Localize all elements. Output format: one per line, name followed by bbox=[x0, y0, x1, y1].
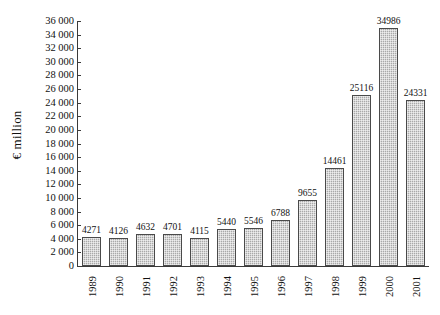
bar-value-label: 24331 bbox=[404, 88, 428, 98]
x-axis-tick-label-text: 1992 bbox=[167, 276, 178, 297]
x-axis-tick-label-text: 1998 bbox=[329, 276, 340, 297]
y-axis-tick-label: 0 bbox=[26, 261, 74, 272]
bar[interactable] bbox=[82, 237, 101, 266]
bar[interactable] bbox=[298, 200, 317, 266]
y-axis-title-label: € million bbox=[9, 110, 25, 159]
bar-slot: 5440 bbox=[213, 21, 240, 266]
plot-area: 4271412646324701411554405546678896551446… bbox=[78, 21, 429, 266]
bar-value-label: 4126 bbox=[109, 226, 128, 236]
bar[interactable] bbox=[109, 238, 128, 266]
bar[interactable] bbox=[379, 28, 398, 266]
bar-chart: € million 02 0004 0006 0008 00010 00012 … bbox=[0, 0, 440, 315]
bar-slot: 4126 bbox=[105, 21, 132, 266]
y-axis-tick-label: 24 000 bbox=[26, 98, 74, 109]
x-axis-tick-label: 1994 bbox=[213, 268, 240, 315]
x-axis-tick-label-text: 1990 bbox=[113, 276, 124, 297]
bar-slot: 4115 bbox=[186, 21, 213, 266]
bar[interactable] bbox=[352, 95, 371, 266]
x-axis-tick-label-text: 1989 bbox=[86, 276, 97, 297]
y-axis-tick-label: 32 000 bbox=[26, 43, 74, 54]
x-axis-tick-label-text: 2001 bbox=[410, 276, 421, 297]
x-axis-tick-label: 1996 bbox=[267, 268, 294, 315]
x-axis-tick-label-text: 1997 bbox=[302, 276, 313, 297]
bar-value-label: 6788 bbox=[271, 208, 290, 218]
y-axis-tick-label: 10 000 bbox=[26, 193, 74, 204]
y-axis-tick-label: 12 000 bbox=[26, 179, 74, 190]
x-axis-tick-label-text: 1999 bbox=[356, 276, 367, 297]
x-axis-tick-label: 1995 bbox=[240, 268, 267, 315]
bar-slot: 5546 bbox=[240, 21, 267, 266]
x-axis-tick-label-text: 2000 bbox=[383, 276, 394, 297]
bar-value-label: 4632 bbox=[136, 222, 155, 232]
x-axis-tick-label: 1993 bbox=[186, 268, 213, 315]
bar-value-label: 14461 bbox=[323, 156, 347, 166]
y-axis-tick-label: 26 000 bbox=[26, 84, 74, 95]
bar[interactable] bbox=[217, 229, 236, 266]
x-axis-tick-label: 1998 bbox=[321, 268, 348, 315]
bar-slot: 14461 bbox=[321, 21, 348, 266]
bar-value-label: 9655 bbox=[298, 188, 317, 198]
bar-value-label: 5440 bbox=[217, 217, 236, 227]
bar-value-label: 4115 bbox=[190, 226, 209, 236]
y-axis-tick-label: 22 000 bbox=[26, 111, 74, 122]
bar[interactable] bbox=[190, 238, 209, 266]
bar-value-label: 4701 bbox=[163, 222, 182, 232]
x-axis-tick-label: 2000 bbox=[375, 268, 402, 315]
y-axis-tick-label: 18 000 bbox=[26, 139, 74, 150]
bar-value-label: 34986 bbox=[377, 16, 401, 26]
x-axis-tick-labels: 1989199019911992199319941995199619971998… bbox=[78, 268, 429, 315]
y-axis-tick-label: 14 000 bbox=[26, 166, 74, 177]
bar-slot: 4271 bbox=[78, 21, 105, 266]
y-axis-tick-label: 2 000 bbox=[26, 247, 74, 258]
bar-slot: 24331 bbox=[402, 21, 429, 266]
y-axis-tick-label: 4 000 bbox=[26, 234, 74, 245]
y-axis-tick-label: 28 000 bbox=[26, 70, 74, 81]
x-axis-tick-label: 1997 bbox=[294, 268, 321, 315]
bar[interactable] bbox=[271, 220, 290, 266]
x-axis-tick-label: 1989 bbox=[78, 268, 105, 315]
bar-value-label: 4271 bbox=[82, 225, 101, 235]
x-axis-tick-label-text: 1991 bbox=[140, 276, 151, 297]
x-axis-line bbox=[77, 266, 429, 267]
x-axis-tick-label-text: 1994 bbox=[221, 276, 232, 297]
bar-slot: 4632 bbox=[132, 21, 159, 266]
bar-slot: 6788 bbox=[267, 21, 294, 266]
x-axis-tick-label: 2001 bbox=[402, 268, 429, 315]
x-axis-tick-label-text: 1996 bbox=[275, 276, 286, 297]
bar[interactable] bbox=[163, 234, 182, 266]
y-axis-tick-label: 36 000 bbox=[26, 16, 74, 27]
bar[interactable] bbox=[136, 234, 155, 266]
bar-value-label: 25116 bbox=[350, 83, 373, 93]
bar-slot: 25116 bbox=[348, 21, 375, 266]
y-axis-tick-label: 20 000 bbox=[26, 125, 74, 136]
x-axis-tick-label: 1991 bbox=[132, 268, 159, 315]
x-axis-tick-label-text: 1995 bbox=[248, 276, 259, 297]
bar-slot: 9655 bbox=[294, 21, 321, 266]
bar[interactable] bbox=[406, 100, 425, 266]
y-axis-tick-label: 16 000 bbox=[26, 152, 74, 163]
bar[interactable] bbox=[325, 168, 344, 266]
y-axis-tick-label: 8 000 bbox=[26, 207, 74, 218]
bar-slot: 4701 bbox=[159, 21, 186, 266]
x-axis-tick-label: 1999 bbox=[348, 268, 375, 315]
y-axis-tick-labels: 02 0004 0006 0008 00010 00012 00014 0001… bbox=[26, 14, 74, 274]
x-axis-tick-label: 1990 bbox=[105, 268, 132, 315]
y-axis-tick-label: 30 000 bbox=[26, 57, 74, 68]
x-axis-tick-label-text: 1993 bbox=[194, 276, 205, 297]
x-axis-tick-label: 1992 bbox=[159, 268, 186, 315]
y-axis-tick-label: 6 000 bbox=[26, 220, 74, 231]
bar[interactable] bbox=[244, 228, 263, 266]
bar-slot: 34986 bbox=[375, 21, 402, 266]
y-axis-tick-label: 34 000 bbox=[26, 30, 74, 41]
bar-value-label: 5546 bbox=[244, 216, 263, 226]
